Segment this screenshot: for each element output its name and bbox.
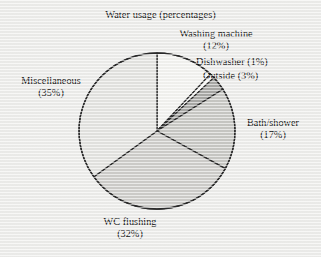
chart-title: Water usage (percentages) xyxy=(0,9,321,21)
slice-label-miscellaneous-value: (35%) xyxy=(4,87,98,99)
slice-label-bath-shower-name: Bath/shower xyxy=(233,117,313,129)
slice-label-wc-flushing-name: WC flushing xyxy=(78,216,182,228)
slice-label-washing-machine-value: (12%) xyxy=(160,40,272,52)
slice-label-outside: Outside (3%) xyxy=(203,70,258,82)
slice-label-dishwasher-name: Dishwasher (1%) xyxy=(196,56,268,68)
slice-label-washing-machine: Washing machine (12%) xyxy=(160,28,272,52)
slice-label-washing-machine-name: Washing machine xyxy=(160,28,272,40)
slice-label-miscellaneous: Miscellaneous (35%) xyxy=(4,75,98,99)
pie-chart-figure: Water usage (percentages) Washing machin… xyxy=(0,0,321,257)
slice-label-wc-flushing-value: (32%) xyxy=(78,228,182,240)
slice-label-miscellaneous-name: Miscellaneous xyxy=(4,75,98,87)
slice-label-outside-name: Outside (3%) xyxy=(203,70,258,82)
slice-label-wc-flushing: WC flushing (32%) xyxy=(78,216,182,240)
slice-label-dishwasher: Dishwasher (1%) xyxy=(196,56,268,68)
slice-label-bath-shower-value: (17%) xyxy=(233,129,313,141)
slice-label-bath-shower: Bath/shower (17%) xyxy=(233,117,313,141)
chart-title-text: Water usage (percentages) xyxy=(0,9,321,21)
